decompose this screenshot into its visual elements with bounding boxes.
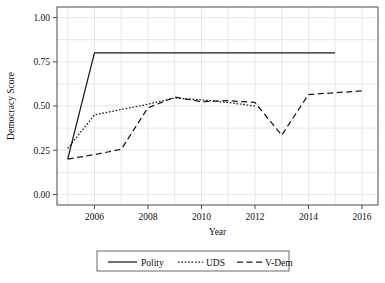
x-tick-label: 2016 [352, 212, 371, 222]
legend-label-polity: Polity [141, 258, 164, 268]
x-tick-label: 2012 [245, 212, 264, 222]
x-axis-title: Year [209, 227, 227, 237]
y-tick-label: 1.00 [33, 13, 50, 23]
x-tick-label: 2006 [85, 212, 104, 222]
y-tick-label: 0.75 [33, 57, 50, 67]
x-tick-label: 2010 [192, 212, 211, 222]
x-tick-label: 2014 [299, 212, 318, 222]
chart-background [0, 0, 385, 283]
x-tick-label: 2008 [138, 212, 157, 222]
y-tick-label: 0.25 [33, 146, 50, 156]
y-axis-title: Democracy Score [6, 72, 16, 140]
democracy-score-chart: 0.000.250.500.751.0020062008201020122014… [0, 0, 385, 283]
legend-label-v-dem: V-Dem [265, 258, 293, 268]
chart-canvas: 0.000.250.500.751.0020062008201020122014… [0, 0, 385, 283]
y-tick-label: 0.50 [33, 101, 50, 111]
legend-label-uds: UDS [206, 258, 225, 268]
y-tick-label: 0.00 [33, 190, 50, 200]
